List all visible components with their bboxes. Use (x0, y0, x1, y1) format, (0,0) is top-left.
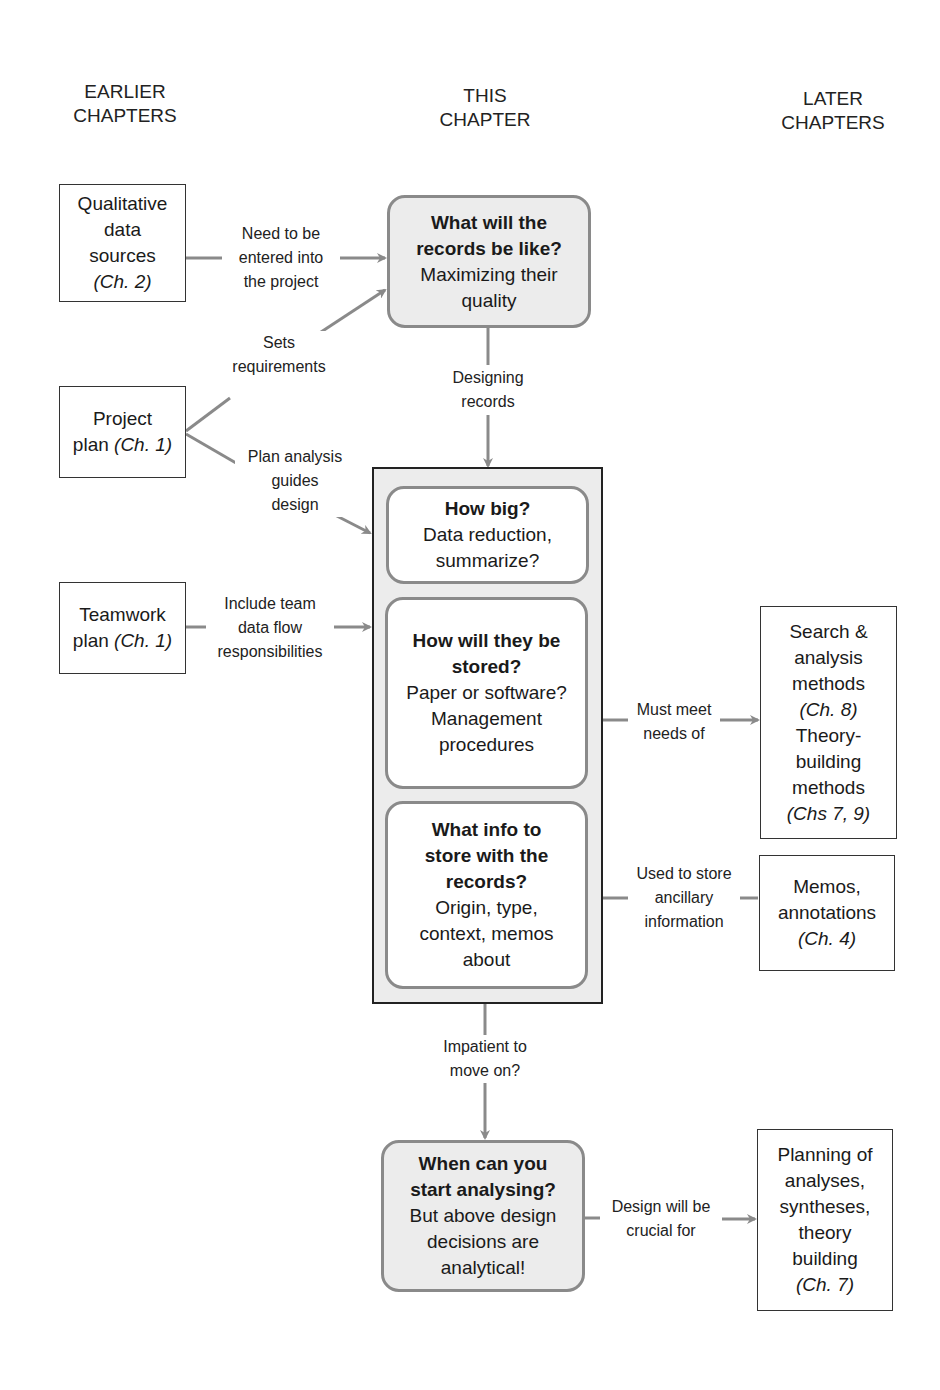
box-text: context, memos (419, 921, 553, 947)
box-title: stored? (452, 654, 522, 680)
label-line: Need to be (222, 222, 340, 246)
box-title: start analysing? (410, 1177, 556, 1203)
header-line: CHAPTERS (55, 104, 195, 128)
label-line: Sets (216, 331, 342, 355)
chapter-ref: (Ch. 1) (114, 630, 172, 651)
label-line: crucial for (600, 1219, 722, 1243)
header-line: THIS (415, 84, 555, 108)
label-line: needs of (628, 722, 720, 746)
box-text: quality (462, 288, 517, 314)
header-line: CHAPTERS (763, 111, 903, 135)
header-this-chapter: THIS CHAPTER (415, 84, 555, 132)
label-line: Impatient to (430, 1035, 540, 1059)
box-text: methods (792, 775, 865, 801)
box-text: building (796, 749, 862, 775)
box-memos-annotations: Memos, annotations (Ch. 4) (759, 855, 895, 971)
box-how-stored: How will they be stored? Paper or softwa… (385, 597, 588, 789)
chapter-ref: (Ch. 2) (93, 269, 151, 295)
box-text: Teamwork (79, 602, 166, 628)
box-title: What will the (431, 210, 547, 236)
box-text-line: plan (Ch. 1) (73, 432, 172, 458)
box-text: procedures (439, 732, 534, 758)
box-title: records be like? (416, 236, 562, 262)
edge-label-designing: Designing records (436, 366, 540, 414)
box-title: How will they be (413, 628, 561, 654)
box-text: Qualitative (78, 191, 168, 217)
edge-label-sets-requirements: Sets requirements (216, 331, 342, 379)
chapter-ref: (Ch. 4) (798, 926, 856, 952)
header-earlier-chapters: EARLIER CHAPTERS (55, 80, 195, 128)
header-line: EARLIER (55, 80, 195, 104)
box-text: Project (93, 406, 152, 432)
edge-label-used-to-store: Used to store ancillary information (628, 862, 740, 934)
box-text: sources (89, 243, 156, 269)
label-line: Must meet (628, 698, 720, 722)
label-line: entered into (222, 246, 340, 270)
box-text: decisions are (427, 1229, 539, 1255)
edge-label-impatient: Impatient to move on? (430, 1035, 540, 1083)
box-text: theory (799, 1220, 852, 1246)
header-line: CHAPTER (415, 108, 555, 132)
box-text: Paper or software? (406, 680, 567, 706)
box-project-plan: Project plan (Ch. 1) (59, 386, 186, 478)
box-text: building (792, 1246, 858, 1272)
box-title: store with the (425, 843, 549, 869)
chapter-ref: (Ch. 1) (114, 434, 172, 455)
box-text: analyses, (785, 1168, 865, 1194)
box-text: analysis (794, 645, 863, 671)
label-line: data flow (206, 616, 334, 640)
label-line: responsibilities (206, 640, 334, 664)
header-line: LATER (763, 87, 903, 111)
label-line: Used to store (628, 862, 740, 886)
box-text: annotations (778, 900, 876, 926)
box-planning-analyses: Planning of analyses, syntheses, theory … (757, 1129, 893, 1311)
label-line: Include team (206, 592, 334, 616)
box-what-info: What info to store with the records? Ori… (385, 801, 588, 989)
box-when-analyse: When can you start analysing? But above … (381, 1140, 585, 1292)
header-later-chapters: LATER CHAPTERS (763, 87, 903, 135)
box-search-analysis-methods: Search & analysis methods (Ch. 8) Theory… (760, 606, 897, 839)
box-title: What info to (432, 817, 542, 843)
chapter-ref: (Chs 7, 9) (787, 801, 870, 827)
label-line: guides (235, 469, 355, 493)
box-text: Maximizing their (420, 262, 557, 288)
chapter-ref: (Ch. 8) (799, 697, 857, 723)
box-text: summarize? (436, 548, 539, 574)
box-text: Memos, (793, 874, 861, 900)
label-line: design (235, 493, 355, 517)
box-text: Origin, type, (435, 895, 537, 921)
box-text: plan (73, 434, 109, 455)
box-text: data (104, 217, 141, 243)
box-text: plan (73, 630, 109, 651)
edge-label-plan-analysis: Plan analysis guides design (235, 445, 355, 517)
box-qualitative-data-sources: Qualitative data sources (Ch. 2) (59, 184, 186, 302)
box-records-like: What will the records be like? Maximizin… (387, 195, 591, 328)
label-line: requirements (216, 355, 342, 379)
box-title: When can you (419, 1151, 548, 1177)
box-how-big: How big? Data reduction, summarize? (386, 486, 589, 584)
box-title: records? (446, 869, 527, 895)
edge-label-entered: Need to be entered into the project (222, 222, 340, 294)
chapter-ref: (Ch. 7) (796, 1272, 854, 1298)
box-text: Management (431, 706, 542, 732)
edge-label-team-flow: Include team data flow responsibilities (206, 592, 334, 664)
box-teamwork-plan: Teamwork plan (Ch. 1) (59, 582, 186, 674)
box-text: Search & (789, 619, 867, 645)
box-text: syntheses, (780, 1194, 871, 1220)
box-text: about (463, 947, 511, 973)
box-text-line: plan (Ch. 1) (73, 628, 172, 654)
edge-label-must-meet: Must meet needs of (628, 698, 720, 746)
box-title: How big? (445, 496, 530, 522)
label-line: Designing (436, 366, 540, 390)
box-text: Data reduction, (423, 522, 552, 548)
label-line: move on? (430, 1059, 540, 1083)
box-text: Theory- (796, 723, 861, 749)
edge-label-crucial: Design will be crucial for (600, 1195, 722, 1243)
label-line: the project (222, 270, 340, 294)
label-line: ancillary (628, 886, 740, 910)
box-text: Planning of (777, 1142, 872, 1168)
box-text: methods (792, 671, 865, 697)
label-line: Design will be (600, 1195, 722, 1219)
box-text: But above design (410, 1203, 557, 1229)
label-line: records (436, 390, 540, 414)
